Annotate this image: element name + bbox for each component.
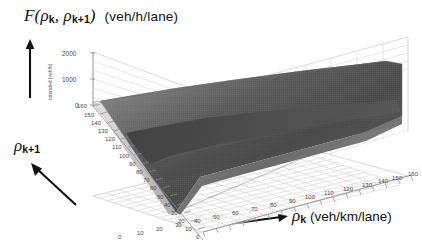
x-tick-100: 100 <box>305 194 316 200</box>
x-tick-160: 160 <box>408 171 419 177</box>
y-tick-50: 50 <box>157 194 164 200</box>
x-tick-30: 30 <box>175 222 182 228</box>
z-axis-label: Intended (veh/h) <box>47 63 53 100</box>
x-tick-10: 10 <box>137 230 144 236</box>
y-tick-120: 120 <box>105 136 116 142</box>
y-tick-110: 110 <box>112 144 122 150</box>
x-tick-50: 50 <box>213 214 220 220</box>
x-tick-90: 90 <box>289 198 296 204</box>
x-tick-40: 40 <box>194 218 201 224</box>
figure-canvas: F(ρk, ρk+1) (veh/h/lane) ρk+1 ρk (veh/km… <box>0 0 422 246</box>
y-tick-130: 130 <box>98 128 109 134</box>
x-tick-140: 140 <box>378 178 389 184</box>
z-axis: 2000 1000 0 Intended (veh/h) <box>47 50 95 109</box>
y-tick-80: 80 <box>136 169 143 175</box>
y-tick-160: 160 <box>77 103 88 109</box>
y-tick-40: 40 <box>164 202 171 208</box>
y-tick-70: 70 <box>143 177 150 183</box>
x-tick-70: 70 <box>251 206 258 212</box>
y-tick-90: 90 <box>129 161 136 167</box>
y-tick-60: 60 <box>150 185 157 191</box>
x-tick-80: 80 <box>270 202 277 208</box>
y-tick-100: 100 <box>119 153 130 159</box>
y-tick-0: 0 <box>196 234 200 240</box>
x-tick-60: 60 <box>232 210 239 216</box>
y-tick-10: 10 <box>185 226 192 232</box>
x-tick-150: 150 <box>392 175 403 181</box>
surface-plot: 2000 1000 0 Intended (veh/h) <box>0 0 422 246</box>
x-tick-130: 130 <box>362 182 373 188</box>
y-tick-30: 30 <box>171 210 178 216</box>
y-tick-140: 140 <box>91 120 102 126</box>
y-tick-150: 150 <box>84 112 95 118</box>
x-tick-0: 0 <box>118 234 122 240</box>
z-tick-2000: 2000 <box>62 50 77 57</box>
x-tick-120: 120 <box>343 186 354 192</box>
z-tick-1000: 1000 <box>62 76 77 83</box>
x-tick-20: 20 <box>156 226 163 232</box>
x-tick-110: 110 <box>324 190 334 196</box>
